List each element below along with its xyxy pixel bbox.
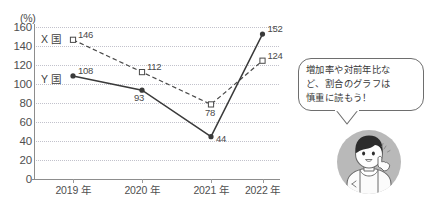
value-label-Y国-3: 152: [268, 23, 283, 34]
value-label-X国-0: 146: [78, 29, 93, 40]
callout-line-3: 慎重に読もう！: [306, 91, 416, 105]
character-avatar: [333, 126, 405, 198]
marker-X国-0: [70, 37, 75, 42]
value-label-Y国-2: 44: [216, 133, 226, 144]
series-line-X国: [73, 40, 263, 105]
marker-X国-3: [260, 58, 265, 63]
callout-line-2: ど、割合のグラフは: [306, 77, 416, 91]
callout-line-1: 増加率や対前年比な: [306, 63, 416, 77]
marker-X国-1: [139, 70, 144, 75]
value-label-Y国-1: 93: [134, 92, 144, 103]
marker-Y国-0: [70, 73, 75, 78]
value-label-Y国-0: 108: [78, 65, 93, 76]
callout-tail: [334, 109, 360, 125]
chart-page: (%) 160140120100806040200 2019 年2020 年20…: [0, 0, 430, 207]
series-label-y: Y 国: [41, 71, 61, 86]
series-label-x: X 国: [41, 31, 61, 46]
value-label-X国-3: 124: [268, 50, 283, 61]
marker-Y国-2: [208, 134, 213, 139]
series-line-Y国: [73, 34, 263, 137]
marker-X国-2: [208, 102, 213, 107]
callout-text: 増加率や対前年比な ど、割合のグラフは 慎重に読もう！: [306, 63, 416, 105]
value-label-X国-2: 78: [205, 107, 215, 118]
marker-Y国-3: [260, 31, 265, 36]
line-chart: (%) 160140120100806040200 2019 年2020 年20…: [0, 0, 286, 207]
value-label-X国-1: 112: [147, 61, 161, 72]
callout-bubble: 増加率や対前年比な ど、割合のグラフは 慎重に読もう！: [298, 58, 424, 124]
